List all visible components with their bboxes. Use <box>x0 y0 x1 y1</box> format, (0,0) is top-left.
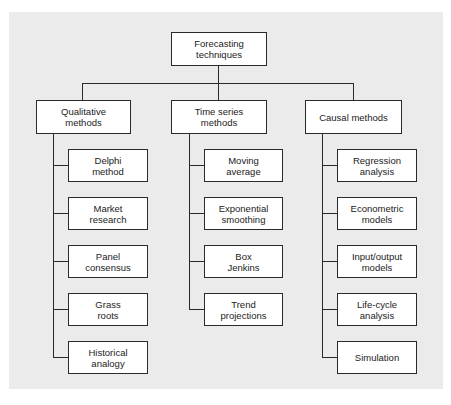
category-causal-methods: Causal methods <box>305 100 402 134</box>
node-box-jenkins: Box Jenkins <box>204 245 283 278</box>
connector-causal <box>353 83 354 100</box>
branch <box>53 165 68 166</box>
branch <box>189 309 204 310</box>
spine-qualitative <box>53 134 54 358</box>
connector-timeseries <box>218 83 219 100</box>
branch <box>322 213 337 214</box>
branch <box>322 261 337 262</box>
spine-timeseries <box>189 134 190 310</box>
category-qualitative-methods: Qualitative methods <box>36 100 131 134</box>
category-time-series-methods: Time series methods <box>171 100 267 134</box>
branch <box>53 309 68 310</box>
connector-qualitative <box>82 83 83 100</box>
node-econometric-models: Econometric models <box>337 197 417 230</box>
node-input-output-models: Input/output models <box>337 245 417 278</box>
node-moving-average: Moving average <box>204 149 283 182</box>
node-exponential-smoothing: Exponential smoothing <box>204 197 283 230</box>
branch <box>189 213 204 214</box>
branch <box>189 165 204 166</box>
node-life-cycle-analysis: Life-cycle analysis <box>337 293 417 326</box>
branch <box>53 213 68 214</box>
node-historical-analogy: Historical analogy <box>68 341 148 374</box>
branch <box>53 261 68 262</box>
spine-causal <box>322 134 323 358</box>
node-delphi-method: Delphi method <box>68 149 148 182</box>
node-panel-consensus: Panel consensus <box>68 245 148 278</box>
node-grass-roots: Grass roots <box>68 293 148 326</box>
connector-root <box>218 66 219 83</box>
branch <box>322 165 337 166</box>
node-simulation: Simulation <box>337 341 417 374</box>
node-regression-analysis: Regression analysis <box>337 149 417 182</box>
root-node: Forecasting techniques <box>171 32 267 66</box>
branch <box>322 309 337 310</box>
branch <box>322 357 337 358</box>
branch <box>189 261 204 262</box>
node-trend-projections: Trend projections <box>204 293 283 326</box>
node-market-research: Market research <box>68 197 148 230</box>
branch <box>53 357 68 358</box>
